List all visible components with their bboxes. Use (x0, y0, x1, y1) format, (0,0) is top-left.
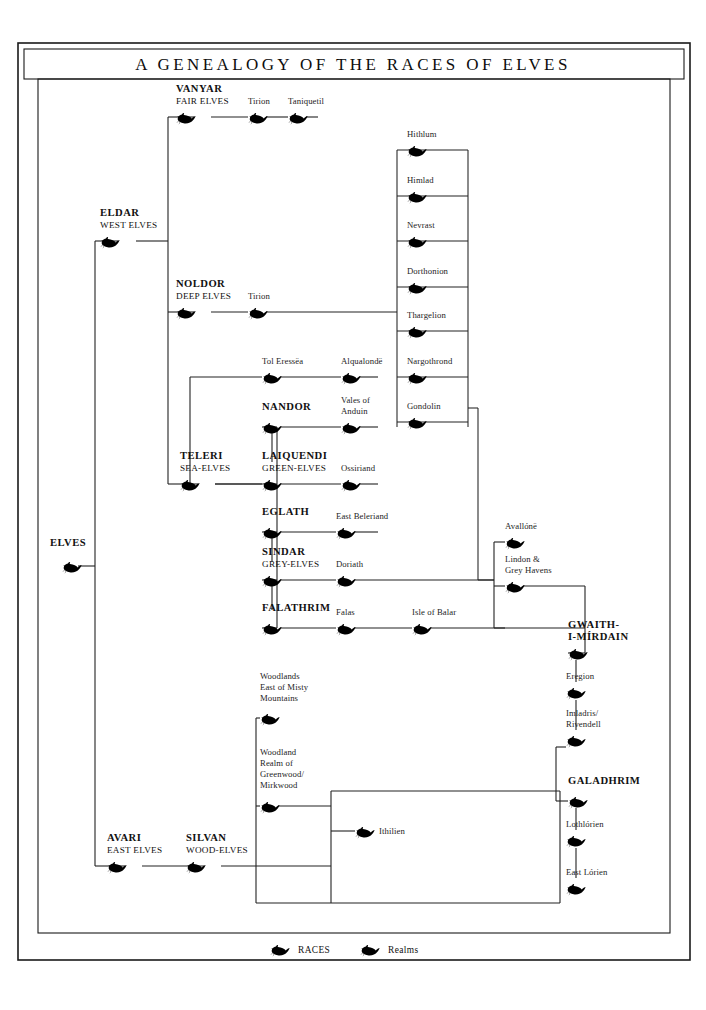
realm-label-lindon-1: Lindon & (505, 554, 540, 564)
realm-node-woodlands-east-of-misty-mountains[interactable]: Woodlands East of Misty Mountains (260, 671, 309, 726)
swan-ship-filled-icon (62, 562, 81, 574)
realm-label-nevrast: Nevrast (407, 220, 435, 230)
realm-label-falas: Falas (336, 607, 355, 617)
race-node-vanyar[interactable]: VANYAR FAIR ELVES (176, 83, 229, 125)
race-node-gwaith-i-mirdain[interactable]: GWAITH- I-MÍRDAIN (568, 619, 629, 661)
realm-node-vales-of-anduin[interactable]: Vales of Anduin (341, 395, 370, 435)
realm-label-woodlands-2: East of Misty (260, 682, 309, 692)
realm-node-lindon-grey-havens[interactable]: Lindon & Grey Havens (505, 554, 552, 594)
race-node-sindar[interactable]: SINDAR GREY-ELVES (262, 546, 319, 588)
realm-label-lothlorien: Lothlórien (566, 819, 604, 829)
race-label-vanyar: VANYAR (176, 83, 222, 94)
realm-label-east-beleriand: East Beleriand (336, 511, 389, 521)
realm-node-ossiriand[interactable]: Ossiriand (341, 463, 376, 492)
realm-label-tirion-n: Tirion (248, 291, 271, 301)
swan-ship-outline-icon (407, 418, 426, 430)
realm-label-eregion: Eregion (566, 671, 595, 681)
realm-label-greenwood-3: Greenwood/ (260, 769, 304, 779)
swan-ship-outline-icon (505, 582, 524, 594)
realm-label-tirion-v: Tirion (248, 96, 271, 106)
swan-ship-outline-icon (407, 237, 426, 249)
swan-ship-filled-icon (107, 862, 126, 874)
race-node-nandor[interactable]: NANDOR (262, 401, 311, 435)
realm-node-taniquetil[interactable]: Taniquetil (288, 96, 325, 125)
realm-node-hithlum[interactable]: Hithlum (407, 129, 437, 158)
realm-node-avallone[interactable]: Avallónë (505, 521, 537, 550)
swan-ship-filled-icon (262, 576, 281, 588)
realm-node-nargothrond[interactable]: Nargothrond (407, 356, 453, 385)
race-sublabel-eldar: WEST ELVES (100, 220, 157, 230)
race-label-eldar: ELDAR (100, 207, 139, 218)
swan-ship-outline-icon (341, 423, 360, 435)
realm-node-ithilien[interactable]: Ithilien (355, 826, 405, 839)
race-node-eldar[interactable]: ELDAR WEST ELVES (100, 207, 157, 249)
realm-node-thargelion[interactable]: Thargelion (407, 310, 447, 339)
swan-ship-filled-icon (262, 423, 281, 435)
race-label-falathrim: FALATHRIM (262, 602, 330, 613)
realm-label-avallone: Avallónë (505, 521, 537, 531)
race-node-noldor[interactable]: NOLDOR DEEP ELVES (176, 278, 231, 320)
realm-label-vales-1: Vales of (341, 395, 370, 405)
race-label-eglath: EGLATH (262, 506, 310, 517)
swan-ship-outline-icon (355, 827, 374, 839)
realm-node-greenwood-mirkwood[interactable]: Woodland Realm of Greenwood/ Mirkwood (260, 747, 304, 814)
realm-node-east-beleriand[interactable]: East Beleriand (336, 511, 389, 540)
race-node-silvan[interactable]: SILVAN WOOD-ELVES (186, 832, 248, 874)
legend: RACES Realms (270, 945, 418, 957)
swan-ship-filled-icon (176, 113, 195, 125)
swan-ship-outline-icon (407, 146, 426, 158)
race-label-teleri: TELERI (180, 450, 223, 461)
swan-ship-filled-icon (270, 945, 289, 957)
realm-node-nevrast[interactable]: Nevrast (407, 220, 435, 249)
realm-label-gondolin: Gondolin (407, 401, 441, 411)
realm-node-eregion[interactable]: Eregion (566, 671, 595, 700)
race-sublabel-silvan: WOOD-ELVES (186, 845, 248, 855)
realm-label-tol-eressea: Tol Eressëa (262, 356, 303, 366)
swan-ship-outline-icon (566, 736, 585, 748)
race-sublabel-gwaith: I-MÍRDAIN (568, 631, 629, 642)
race-node-elves[interactable]: ELVES (50, 537, 86, 574)
realm-label-woodlands-3: Mountains (260, 693, 299, 703)
realm-node-east-lorien[interactable]: East Lórien (566, 867, 608, 896)
race-label-gwaith: GWAITH- (568, 619, 619, 630)
swan-ship-outline-icon (248, 113, 267, 125)
realm-node-doriath[interactable]: Doriath (336, 559, 364, 588)
realm-node-tirion-vanyar[interactable]: Tirion (248, 96, 271, 125)
race-node-laiquendi[interactable]: LAIQUENDI GREEN-ELVES (262, 450, 327, 492)
realm-node-dorthonion[interactable]: Dorthonion (407, 266, 449, 295)
realm-label-alqualonde: Alqualondë (341, 356, 383, 366)
swan-ship-outline-icon (336, 528, 355, 540)
race-node-avari[interactable]: AVARI EAST ELVES (107, 832, 162, 874)
swan-ship-outline-icon (407, 192, 426, 204)
swan-ship-outline-icon (566, 836, 585, 848)
realm-node-tol-eressea[interactable]: Tol Eressëa (262, 356, 303, 385)
race-label-avari: AVARI (107, 832, 141, 843)
swan-ship-outline-icon (336, 624, 355, 636)
race-label-elves: ELVES (50, 537, 86, 548)
swan-ship-outline-icon (412, 624, 431, 636)
race-node-falathrim[interactable]: FALATHRIM (262, 602, 330, 636)
swan-ship-filled-icon (568, 797, 587, 809)
realm-label-ithilien: Ithilien (379, 826, 405, 836)
realm-node-tirion-noldor[interactable]: Tirion (248, 291, 271, 320)
realm-node-imladris-rivendell[interactable]: Imladris/ Rivendell (566, 708, 601, 748)
race-node-galadhrim[interactable]: GALADHRIM (568, 775, 640, 809)
realm-label-lindon-2: Grey Havens (505, 565, 552, 575)
race-node-eglath[interactable]: EGLATH (262, 506, 310, 540)
swan-ship-outline-icon (341, 373, 360, 385)
realm-node-falas[interactable]: Falas (336, 607, 356, 636)
realm-node-himlad[interactable]: Himlad (407, 175, 434, 204)
realm-node-alqualonde[interactable]: Alqualondë (341, 356, 383, 385)
realm-node-isle-of-balar[interactable]: Isle of Balar (412, 607, 456, 636)
swan-ship-filled-icon (176, 308, 195, 320)
race-node-teleri[interactable]: TELERI SEA-ELVES (180, 450, 230, 492)
realm-label-east-lorien: East Lórien (566, 867, 608, 877)
realm-node-gondolin[interactable]: Gondolin (407, 401, 441, 430)
realm-label-woodlands-1: Woodlands (260, 671, 300, 681)
eastern-realms-lines (95, 718, 560, 903)
swan-ship-filled-icon (186, 862, 205, 874)
realm-node-lothlorien[interactable]: Lothlórien (566, 819, 604, 848)
realm-label-isle-of-balar: Isle of Balar (412, 607, 456, 617)
swan-ship-outline-icon (288, 113, 307, 125)
swan-ship-filled-icon (262, 480, 281, 492)
